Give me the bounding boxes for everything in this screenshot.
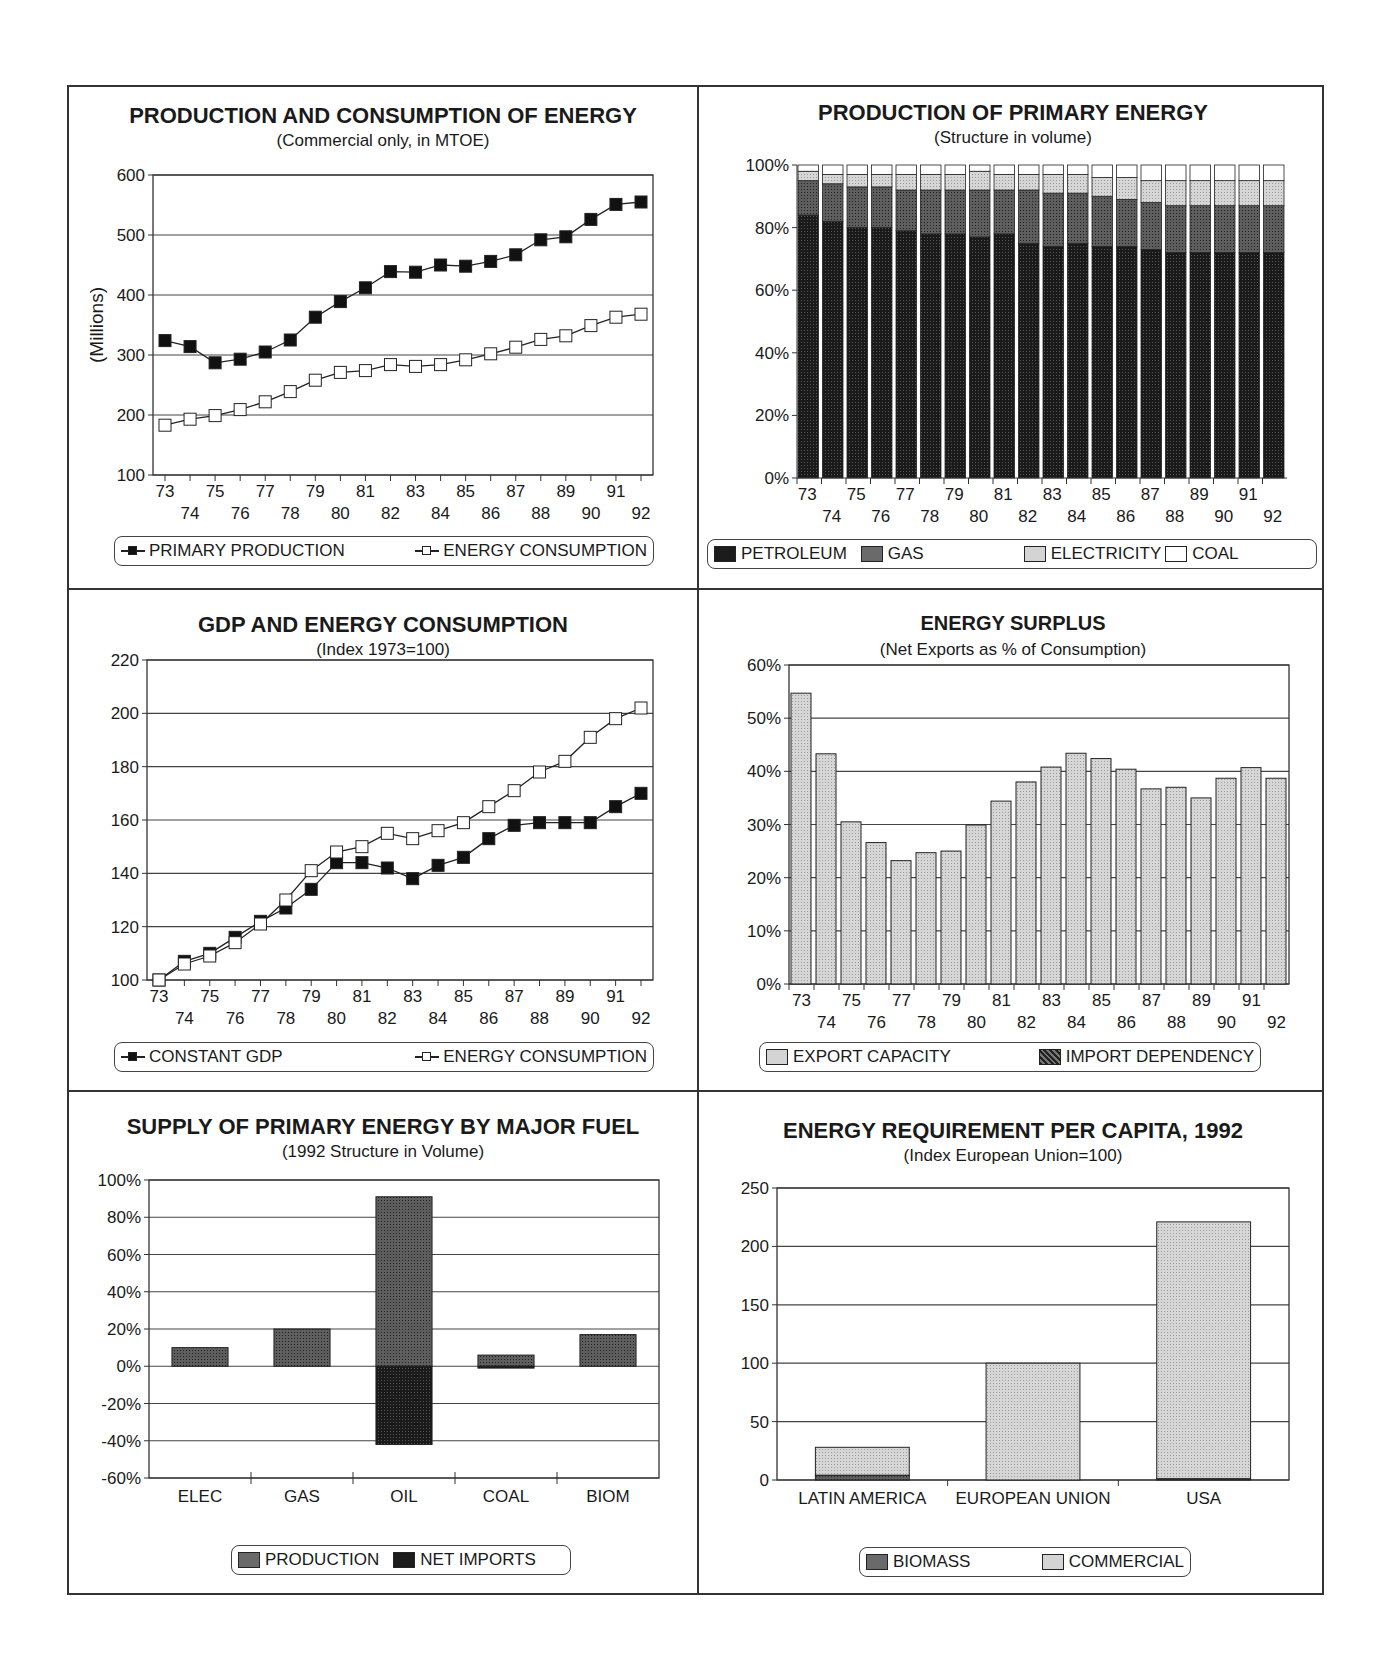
svg-text:74: 74 bbox=[817, 1013, 836, 1032]
svg-text:75: 75 bbox=[842, 991, 861, 1010]
legend-item-energy-consumption: ENERGY CONSUMPTION bbox=[415, 541, 647, 561]
chart-legend: PRODUCTION NET IMPORTS bbox=[231, 1545, 571, 1575]
svg-text:79: 79 bbox=[306, 482, 325, 501]
svg-text:120: 120 bbox=[111, 918, 139, 937]
export-capacity-swatch-icon bbox=[766, 1049, 788, 1065]
svg-text:83: 83 bbox=[403, 987, 422, 1006]
svg-text:84: 84 bbox=[429, 1009, 448, 1028]
svg-text:88: 88 bbox=[530, 1009, 549, 1028]
svg-text:-60%: -60% bbox=[101, 1469, 141, 1488]
svg-text:76: 76 bbox=[226, 1009, 245, 1028]
svg-text:81: 81 bbox=[992, 991, 1011, 1010]
svg-text:20%: 20% bbox=[107, 1320, 141, 1339]
svg-text:50: 50 bbox=[750, 1413, 769, 1432]
svg-text:87: 87 bbox=[505, 987, 524, 1006]
net-imports-swatch-icon bbox=[393, 1552, 415, 1568]
svg-text:78: 78 bbox=[920, 507, 939, 526]
legend-item-gas: GAS bbox=[861, 544, 924, 564]
svg-text:80: 80 bbox=[969, 507, 988, 526]
chart-grid-frame: PRODUCTION AND CONSUMPTION OF ENERGY (Co… bbox=[67, 85, 1324, 1595]
bar-chart-energy-surplus: 0%10%20%30%40%50%60%73747576777879808182… bbox=[699, 590, 1327, 1093]
svg-text:83: 83 bbox=[1043, 485, 1062, 504]
legend-item-electricity: ELECTRICITY bbox=[1024, 544, 1162, 564]
chart-legend: PRIMARY PRODUCTION ENERGY CONSUMPTION bbox=[114, 536, 654, 566]
svg-text:100: 100 bbox=[741, 1354, 769, 1373]
line-chart-production-consumption: 1002003004005006007374757677787980818283… bbox=[69, 87, 697, 590]
svg-text:77: 77 bbox=[892, 991, 911, 1010]
electricity-swatch-icon bbox=[1024, 546, 1046, 562]
svg-text:87: 87 bbox=[1142, 991, 1161, 1010]
svg-text:200: 200 bbox=[111, 704, 139, 723]
svg-text:84: 84 bbox=[1067, 507, 1086, 526]
svg-text:50%: 50% bbox=[747, 709, 781, 728]
svg-text:92: 92 bbox=[1267, 1013, 1286, 1032]
svg-text:40%: 40% bbox=[747, 762, 781, 781]
svg-text:77: 77 bbox=[256, 482, 275, 501]
line-chart-gdp-energy: 1001201401601802002207374757677787980818… bbox=[69, 590, 697, 1093]
svg-text:78: 78 bbox=[276, 1009, 295, 1028]
filled-square-marker-icon bbox=[121, 543, 145, 559]
svg-text:80%: 80% bbox=[107, 1208, 141, 1227]
chart-legend: CONSTANT GDP ENERGY CONSUMPTION bbox=[114, 1042, 654, 1072]
svg-text:84: 84 bbox=[431, 504, 450, 523]
legend-item-import-dependency: IMPORT DEPENDENCY bbox=[1039, 1047, 1254, 1067]
svg-text:89: 89 bbox=[555, 987, 574, 1006]
svg-text:82: 82 bbox=[1017, 1013, 1036, 1032]
legend-item-export-capacity: EXPORT CAPACITY bbox=[766, 1047, 951, 1067]
svg-text:-20%: -20% bbox=[101, 1395, 141, 1414]
petroleum-swatch-icon bbox=[714, 546, 736, 562]
svg-text:90: 90 bbox=[1217, 1013, 1236, 1032]
chart-legend: PETROLEUM GAS ELECTRICITY COAL bbox=[707, 539, 1317, 569]
svg-text:90: 90 bbox=[581, 1009, 600, 1028]
svg-text:79: 79 bbox=[945, 485, 964, 504]
svg-text:COAL: COAL bbox=[483, 1487, 529, 1506]
svg-text:74: 74 bbox=[181, 504, 200, 523]
svg-text:100: 100 bbox=[111, 971, 139, 990]
svg-text:82: 82 bbox=[378, 1009, 397, 1028]
svg-text:73: 73 bbox=[156, 482, 175, 501]
svg-text:87: 87 bbox=[506, 482, 525, 501]
svg-text:91: 91 bbox=[606, 987, 625, 1006]
svg-text:80: 80 bbox=[331, 504, 350, 523]
legend-item-commercial: COMMERCIAL bbox=[1042, 1552, 1184, 1572]
svg-text:USA: USA bbox=[1186, 1489, 1222, 1508]
gas-swatch-icon bbox=[861, 546, 883, 562]
svg-text:0%: 0% bbox=[756, 975, 781, 994]
panel-supply-by-fuel: SUPPLY OF PRIMARY ENERGY BY MAJOR FUEL (… bbox=[69, 1092, 697, 1595]
chart-legend: EXPORT CAPACITY IMPORT DEPENDENCY bbox=[759, 1042, 1261, 1072]
svg-text:89: 89 bbox=[1192, 991, 1211, 1010]
svg-text:20%: 20% bbox=[755, 406, 789, 425]
open-square-marker-icon bbox=[415, 543, 439, 559]
legend-item-constant-gdp: CONSTANT GDP bbox=[121, 1047, 283, 1067]
svg-text:82: 82 bbox=[381, 504, 400, 523]
svg-text:81: 81 bbox=[356, 482, 375, 501]
svg-text:82: 82 bbox=[1018, 507, 1037, 526]
svg-text:73: 73 bbox=[798, 485, 817, 504]
svg-text:0%: 0% bbox=[764, 469, 789, 488]
open-square-marker-icon bbox=[415, 1049, 439, 1065]
svg-text:80: 80 bbox=[967, 1013, 986, 1032]
svg-text:ELEC: ELEC bbox=[178, 1487, 222, 1506]
svg-text:83: 83 bbox=[1042, 991, 1061, 1010]
svg-text:74: 74 bbox=[175, 1009, 194, 1028]
svg-text:75: 75 bbox=[200, 987, 219, 1006]
svg-text:75: 75 bbox=[847, 485, 866, 504]
svg-text:0: 0 bbox=[760, 1471, 769, 1490]
legend-item-biomass: BIOMASS bbox=[866, 1552, 970, 1572]
svg-text:91: 91 bbox=[606, 482, 625, 501]
stacked-bar-chart-primary-energy: 0%20%40%60%80%100%7374757677787980818283… bbox=[699, 87, 1327, 590]
panel-primary-energy-structure: PRODUCTION OF PRIMARY ENERGY (Structure … bbox=[699, 87, 1327, 590]
svg-text:76: 76 bbox=[231, 504, 250, 523]
svg-text:85: 85 bbox=[454, 987, 473, 1006]
panel-energy-surplus: ENERGY SURPLUS (Net Exports as % of Cons… bbox=[699, 590, 1327, 1093]
svg-text:88: 88 bbox=[1165, 507, 1184, 526]
svg-text:74: 74 bbox=[822, 507, 841, 526]
svg-text:400: 400 bbox=[117, 286, 145, 305]
svg-text:600: 600 bbox=[117, 166, 145, 185]
legend-item-energy-consumption: ENERGY CONSUMPTION bbox=[415, 1047, 647, 1067]
commercial-swatch-icon bbox=[1042, 1554, 1064, 1570]
svg-text:160: 160 bbox=[111, 811, 139, 830]
svg-text:60%: 60% bbox=[747, 656, 781, 675]
svg-text:GAS: GAS bbox=[284, 1487, 320, 1506]
svg-text:89: 89 bbox=[1190, 485, 1209, 504]
